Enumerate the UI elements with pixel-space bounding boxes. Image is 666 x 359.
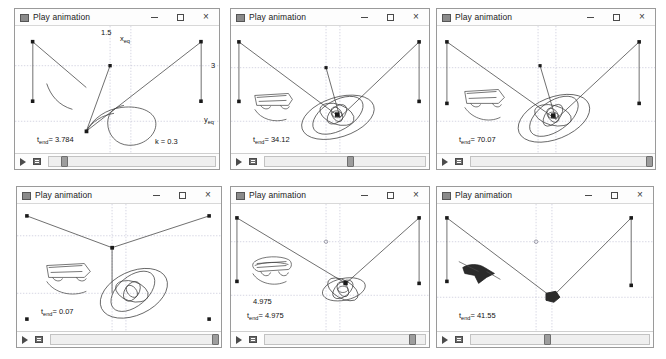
titlebar-5[interactable]: Play animation × [231, 187, 429, 204]
frames-icon[interactable] [248, 156, 259, 167]
window-title: Play animation [33, 13, 90, 22]
time-slider-2[interactable] [264, 156, 426, 167]
trajectory-curve-3 [511, 85, 596, 152]
k-parameter-label: k = 0.3 [155, 138, 178, 146]
t-end-label-1: tend= 3.784 [37, 136, 74, 144]
vehicle-sketch-2 [255, 93, 293, 120]
plot-area-4: tend= 0.07 [17, 204, 221, 331]
slider-handle[interactable] [61, 156, 68, 167]
app-icon [236, 13, 245, 22]
plot-area-6: tend= 41.55 [437, 204, 653, 331]
plot-area-5: 4.975 tend= 4.975 [231, 204, 429, 331]
t-end-label-3: tend= 70.07 [459, 136, 496, 144]
time-slider-4[interactable] [50, 334, 218, 345]
time-slider-5[interactable] [264, 334, 426, 345]
t-end-label-5: tend= 4.975 [247, 312, 284, 320]
plot-area-1: 1.5 xeq 3 yeq tend= 3.784 k = 0.3 [15, 26, 219, 153]
close-button[interactable]: × [403, 187, 429, 203]
play-icon[interactable] [18, 156, 29, 167]
pendulum-linkage-5 [237, 218, 419, 283]
minimize-button[interactable] [143, 187, 169, 203]
slider-handle[interactable] [646, 156, 653, 167]
app-icon [442, 13, 451, 22]
slider-handle[interactable] [212, 334, 219, 345]
trajectory-curve-2 [296, 87, 380, 148]
play-icon[interactable] [20, 334, 31, 345]
app-icon [236, 191, 245, 200]
maximize-button[interactable] [169, 187, 195, 203]
toolbar-3 [437, 153, 655, 169]
close-button[interactable]: × [195, 187, 221, 203]
maximize-button[interactable] [377, 9, 403, 25]
toolbar-5 [231, 331, 429, 347]
pendulum-linkage-2 [239, 42, 419, 117]
pendulum-linkage-3 [447, 42, 639, 119]
y-tick-label: 3 [211, 62, 215, 70]
toolbar-1 [15, 153, 219, 169]
play-icon[interactable] [234, 156, 245, 167]
vehicle-sketch-6 [459, 262, 501, 284]
titlebar-3[interactable]: Play animation × [437, 9, 655, 26]
animation-window-3: Play animation × [436, 8, 656, 170]
time-slider-6[interactable] [470, 334, 650, 345]
minimize-button[interactable] [141, 9, 167, 25]
window-title: Play animation [455, 191, 512, 200]
frames-icon[interactable] [454, 334, 465, 345]
minimize-button[interactable] [351, 9, 377, 25]
animation-window-4: Play animation × [16, 186, 222, 348]
grid-cell-6: Play animation × [432, 180, 666, 359]
app-icon [442, 191, 451, 200]
pendulum-linkage-1 [33, 42, 201, 131]
trajectory-curve-6 [546, 291, 560, 302]
panel-grid: Play animation × [0, 0, 666, 359]
window-title: Play animation [455, 13, 512, 22]
app-icon [20, 13, 29, 22]
play-icon[interactable] [234, 334, 245, 345]
joint-markers-6 [445, 216, 633, 287]
pendulum-linkage-6 [447, 218, 631, 297]
gridlines-3 [437, 26, 655, 153]
close-button[interactable]: × [403, 9, 429, 25]
trajectory-curve-5 [320, 273, 367, 305]
animation-window-2: Play animation × [230, 8, 430, 170]
titlebar-1[interactable]: Play animation × [15, 9, 219, 26]
toolbar-4 [17, 331, 221, 347]
minimize-button[interactable] [351, 187, 377, 203]
minimize-button[interactable] [577, 9, 603, 25]
titlebar-6[interactable]: Play animation × [437, 187, 653, 204]
minimize-button[interactable] [575, 187, 601, 203]
t-end-label-6: tend= 41.55 [459, 312, 496, 320]
titlebar-4[interactable]: Play animation × [17, 187, 221, 204]
maximize-button[interactable] [603, 9, 629, 25]
titlebar-2[interactable]: Play animation × [231, 9, 429, 26]
frames-icon[interactable] [248, 334, 259, 345]
maximize-button[interactable] [377, 187, 403, 203]
window-controls-4: × [143, 187, 221, 203]
time-slider-3[interactable] [470, 156, 652, 167]
plot-svg-2 [231, 26, 429, 153]
plot-area-2: tend= 34.12 [231, 26, 429, 153]
play-icon[interactable] [440, 156, 451, 167]
grid-cell-5: Play animation × [228, 180, 432, 359]
maximize-button[interactable] [601, 187, 627, 203]
x-eq-axis-label: xeq [120, 35, 130, 43]
frames-icon[interactable] [32, 156, 43, 167]
x-tick-label: 1.5 [101, 29, 111, 37]
slider-handle[interactable] [409, 334, 416, 345]
t-end-label-2: tend= 34.12 [253, 136, 290, 144]
frames-icon[interactable] [454, 156, 465, 167]
time-slider-1[interactable] [48, 156, 216, 167]
frames-icon[interactable] [34, 334, 45, 345]
slider-handle[interactable] [347, 156, 354, 167]
close-button[interactable]: × [193, 9, 219, 25]
close-button[interactable]: × [629, 9, 655, 25]
close-button[interactable]: × [627, 187, 653, 203]
grid-cell-4: Play animation × [0, 180, 228, 359]
animation-window-6: Play animation × [436, 186, 654, 348]
vehicle-sketch-5 [253, 257, 292, 284]
window-title: Play animation [249, 191, 306, 200]
play-icon[interactable] [440, 334, 451, 345]
maximize-button[interactable] [167, 9, 193, 25]
slider-handle[interactable] [544, 334, 551, 345]
gridlines-1 [15, 26, 219, 153]
